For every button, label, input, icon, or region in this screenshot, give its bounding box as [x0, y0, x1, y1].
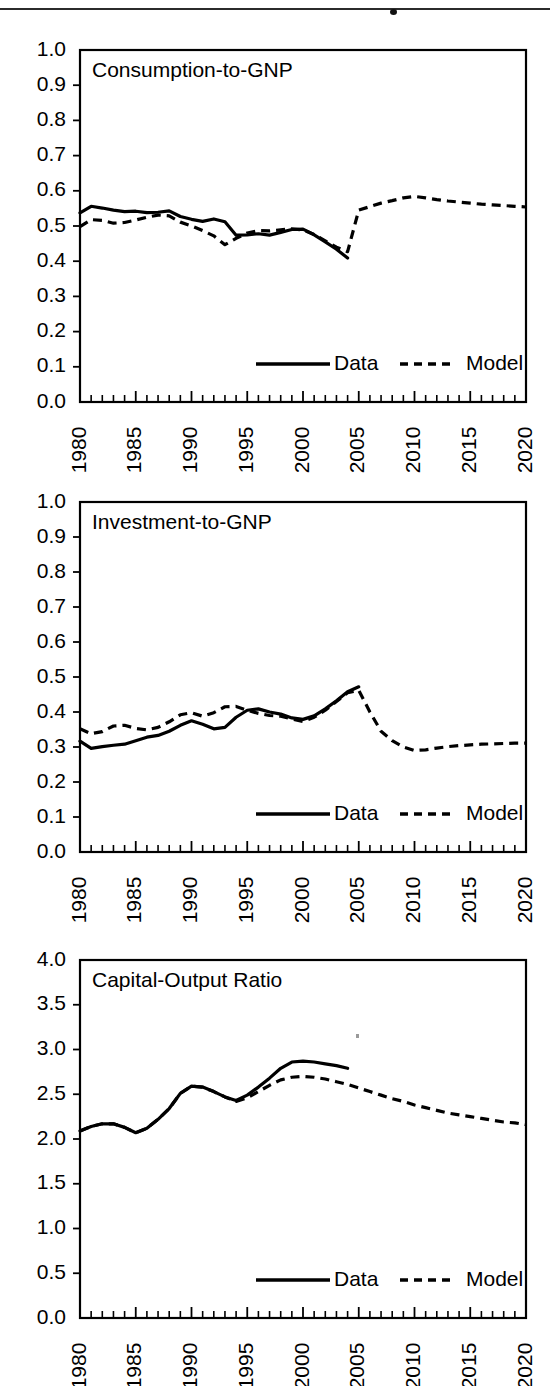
- y-tick-label: 1.5: [37, 1170, 66, 1193]
- y-tick-label: 0.4: [37, 248, 67, 271]
- legend-label-data: Data: [334, 801, 379, 824]
- legend-label-data: Data: [334, 351, 379, 374]
- x-tick-label: 1990: [178, 427, 201, 474]
- y-tick-label: 0.4: [37, 699, 67, 722]
- x-tick-label: 2015: [457, 877, 480, 924]
- x-tick-label: 2010: [401, 427, 424, 474]
- y-tick-label: 2.5: [37, 1081, 66, 1104]
- y-tick-label: 0.9: [37, 524, 66, 547]
- x-tick-label: 2005: [345, 427, 368, 474]
- y-tick-label: 0.3: [37, 734, 66, 757]
- chart-svg-capital-output-ratio: 0.00.51.01.52.02.53.03.54.01980198519901…: [0, 928, 550, 1386]
- y-tick-label: 0.6: [37, 629, 66, 652]
- y-tick-label: 4.0: [37, 947, 66, 970]
- figure-page: 0.00.10.20.30.40.50.60.70.80.91.01980198…: [0, 0, 550, 1386]
- x-tick-label: 2000: [290, 1343, 313, 1386]
- x-tick-label: 2005: [345, 877, 368, 924]
- x-tick-label: 2020: [513, 877, 536, 924]
- y-tick-label: 1.0: [37, 1215, 66, 1238]
- top-horizontal-rule: [0, 8, 550, 10]
- series-data: [80, 687, 359, 749]
- plot-frame: [80, 960, 526, 1318]
- y-tick-label: 0.8: [37, 559, 66, 582]
- y-tick-label: 3.5: [37, 991, 66, 1014]
- x-tick-label: 2015: [457, 1343, 480, 1386]
- chart-svg-consumption-to-gnp: 0.00.10.20.30.40.50.60.70.80.91.01980198…: [0, 18, 550, 470]
- chart-panel-investment: 0.00.10.20.30.40.50.60.70.80.91.01980198…: [0, 470, 550, 920]
- panel-title: Investment-to-GNP: [92, 510, 272, 533]
- panel-title: Capital-Output Ratio: [92, 968, 282, 991]
- series-model: [80, 1076, 526, 1132]
- y-tick-label: 0.7: [37, 142, 66, 165]
- y-tick-label: 0.7: [37, 594, 66, 617]
- y-tick-label: 0.1: [37, 353, 66, 376]
- y-tick-label: 0.6: [37, 177, 66, 200]
- y-tick-label: 0.1: [37, 804, 66, 827]
- y-tick-label: 0.0: [37, 389, 66, 412]
- y-tick-label: 0.2: [37, 769, 66, 792]
- x-tick-label: 1985: [122, 1343, 145, 1386]
- x-tick-label: 1980: [67, 1343, 90, 1386]
- y-tick-label: 0.2: [37, 318, 66, 341]
- chart-panel-capital: 0.00.51.01.52.02.53.03.54.01980198519901…: [0, 928, 550, 1386]
- legend-label-data: Data: [334, 1267, 379, 1290]
- legend-label-model: Model: [466, 351, 523, 374]
- y-tick-label: 3.0: [37, 1036, 66, 1059]
- legend-label-model: Model: [466, 1267, 523, 1290]
- y-tick-label: 0.0: [37, 1305, 66, 1328]
- y-tick-label: 1.0: [37, 37, 66, 60]
- x-tick-label: 2000: [290, 427, 313, 474]
- chart-svg-investment-to-gnp: 0.00.10.20.30.40.50.60.70.80.91.01980198…: [0, 470, 550, 920]
- y-tick-label: 0.9: [37, 72, 66, 95]
- x-tick-label: 1985: [122, 877, 145, 924]
- x-tick-label: 1990: [178, 877, 201, 924]
- x-tick-label: 2015: [457, 427, 480, 474]
- x-tick-label: 2010: [401, 1343, 424, 1386]
- y-tick-label: 0.5: [37, 213, 66, 236]
- x-tick-label: 1990: [178, 1343, 201, 1386]
- legend-label-model: Model: [466, 801, 523, 824]
- plot-frame: [80, 50, 526, 402]
- y-tick-label: 0.3: [37, 283, 66, 306]
- rule-speck: [390, 9, 397, 15]
- page-speck: [356, 1034, 359, 1038]
- y-tick-label: 1.0: [37, 489, 66, 512]
- panel-title: Consumption-to-GNP: [92, 58, 293, 81]
- x-tick-label: 1995: [234, 877, 257, 924]
- x-tick-label: 1980: [67, 427, 90, 474]
- x-tick-label: 1980: [67, 877, 90, 924]
- x-tick-label: 2020: [513, 427, 536, 474]
- chart-panel-consumption: 0.00.10.20.30.40.50.60.70.80.91.01980198…: [0, 18, 550, 470]
- y-tick-label: 0.8: [37, 107, 66, 130]
- x-tick-label: 1995: [234, 427, 257, 474]
- x-tick-label: 1995: [234, 1343, 257, 1386]
- y-tick-label: 0.0: [37, 839, 66, 862]
- x-tick-label: 2010: [401, 877, 424, 924]
- plot-frame: [80, 502, 526, 852]
- y-tick-label: 2.0: [37, 1126, 66, 1149]
- y-tick-label: 0.5: [37, 664, 66, 687]
- x-tick-label: 1985: [122, 427, 145, 474]
- x-tick-label: 2000: [290, 877, 313, 924]
- series-model: [80, 196, 526, 251]
- series-data: [80, 1061, 348, 1133]
- y-tick-label: 0.5: [37, 1260, 66, 1283]
- x-tick-label: 2005: [345, 1343, 368, 1386]
- x-tick-label: 2020: [513, 1343, 536, 1386]
